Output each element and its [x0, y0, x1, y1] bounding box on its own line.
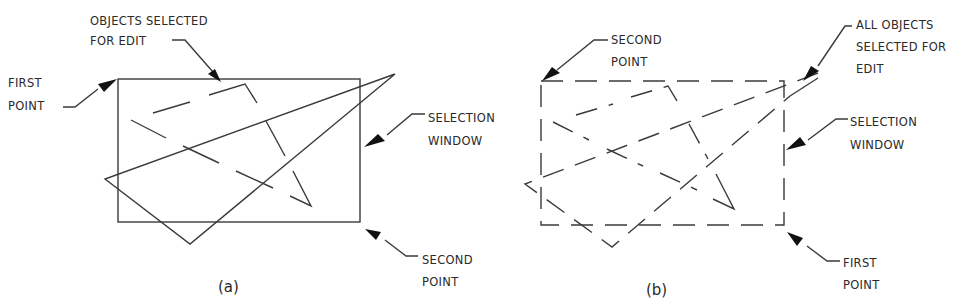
leader-line	[172, 40, 213, 72]
label-all-objects-line3: EDIT	[856, 59, 884, 79]
object-segment	[660, 173, 697, 190]
object-segment	[631, 86, 680, 106]
label-objects-selected-line1: OBJECTS SELECTED	[90, 11, 208, 31]
label-first-point-line2: POINT	[843, 275, 880, 295]
label-all-objects-line1: ALL OBJECTS	[856, 15, 934, 35]
leader-line	[808, 119, 848, 140]
label-first-point-line1: FIRST	[8, 73, 42, 93]
label-second-point-line2: POINT	[611, 52, 648, 72]
label-first-point-line2: POINT	[8, 96, 45, 116]
caption-b: (b)	[646, 281, 667, 299]
leader-line	[807, 246, 840, 261]
crossing-object	[525, 73, 818, 247]
arrowhead-icon	[365, 229, 381, 240]
object-segment	[209, 84, 257, 103]
leader-line	[387, 114, 425, 135]
leader-line	[385, 240, 418, 256]
object-segment	[790, 78, 818, 96]
object-segment	[553, 122, 589, 140]
leader-line	[557, 40, 608, 70]
label-selection-window-line1: SELECTION	[428, 108, 495, 128]
caption-a: (a)	[218, 278, 239, 296]
label-second-point-line1: SECOND	[611, 30, 662, 50]
label-selection-window-line2: WINDOW	[850, 135, 904, 155]
object-segment	[689, 124, 708, 159]
label-objects-selected-line2: FOR EDIT	[90, 31, 146, 51]
object-segment	[153, 102, 190, 113]
object-segment	[576, 104, 613, 115]
object-segment	[607, 149, 643, 166]
arrowhead-icon	[98, 79, 117, 92]
label-selection-window-line2: WINDOW	[428, 131, 482, 151]
figure-b-drawing	[525, 26, 852, 261]
object-segment	[131, 120, 166, 138]
label-second-point-line1: SECOND	[422, 250, 473, 270]
label-first-point-line1: FIRST	[843, 253, 877, 273]
figure-a-drawing	[63, 40, 425, 256]
arrowhead-icon	[786, 137, 806, 150]
arrowhead-icon	[208, 69, 221, 82]
object-segment	[290, 171, 311, 206]
leader-line	[63, 89, 98, 107]
label-selection-window-line1: SELECTION	[850, 112, 917, 132]
diagram-canvas	[0, 0, 978, 308]
leader-line	[818, 26, 852, 66]
object-segment	[183, 146, 219, 163]
label-all-objects-line2: SELECTED FOR	[856, 37, 946, 57]
object-segment	[266, 121, 285, 156]
arrowhead-icon	[364, 134, 385, 147]
label-second-point-line2: POINT	[422, 272, 459, 292]
crossing-object	[105, 74, 395, 244]
arrowhead-icon	[787, 232, 803, 246]
object-segment	[713, 174, 734, 209]
